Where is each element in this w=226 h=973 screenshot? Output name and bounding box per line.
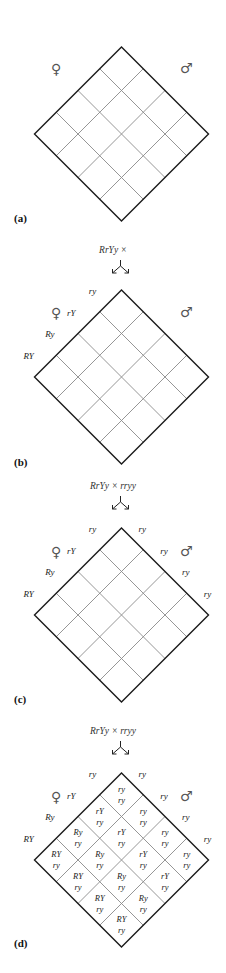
- cell-female-allele: ry: [150, 827, 180, 838]
- cell-female-allele: rY: [150, 871, 180, 882]
- cell-female-allele: RY: [107, 914, 137, 925]
- cell-female-allele: RY: [41, 849, 71, 860]
- cell-male-allele: ry: [150, 882, 180, 893]
- female-gamete-label: ry: [89, 770, 97, 779]
- cell-male-allele: ry: [107, 795, 137, 806]
- cell-male-allele: ry: [107, 925, 137, 936]
- cell-male-allele: ry: [107, 882, 137, 893]
- offspring-cell: Ryry: [107, 871, 137, 893]
- cell-female-allele: RY: [63, 871, 93, 882]
- offspring-cell: ryry: [172, 849, 202, 871]
- cell-female-allele: Ry: [63, 827, 93, 838]
- male-symbol-icon: ♂: [180, 789, 193, 803]
- panel-d: RrYy × rryy♀♂RYRyrYryryryryryRYryRyryrYr…: [0, 0, 226, 973]
- cell-male-allele: ry: [107, 838, 137, 849]
- female-gamete-label: Ry: [45, 813, 54, 822]
- cell-male-allele: ry: [63, 838, 93, 849]
- offspring-cell: ryry: [128, 806, 158, 828]
- offspring-cell: ryry: [150, 827, 180, 849]
- offspring-cell: RYry: [41, 849, 71, 871]
- offspring-cell: Ryry: [128, 893, 158, 915]
- female-gamete-label: RY: [23, 835, 33, 844]
- male-gamete-label: ry: [160, 792, 168, 801]
- cell-male-allele: ry: [172, 860, 202, 871]
- cell-male-allele: ry: [85, 860, 115, 871]
- cell-male-allele: ry: [128, 860, 158, 871]
- cell-female-allele: ry: [107, 784, 137, 795]
- offspring-cell: ryry: [107, 784, 137, 806]
- panel-label: (d): [14, 937, 27, 949]
- offspring-cell: rYry: [128, 849, 158, 871]
- cell-male-allele: ry: [128, 904, 158, 915]
- cell-female-allele: RY: [85, 893, 115, 904]
- offspring-cell: Ryry: [85, 849, 115, 871]
- male-gamete-label: ry: [138, 770, 146, 779]
- cell-male-allele: ry: [63, 882, 93, 893]
- cell-male-allele: ry: [150, 838, 180, 849]
- cell-male-allele: ry: [85, 904, 115, 915]
- cell-female-allele: Ry: [107, 871, 137, 882]
- cell-female-allele: rY: [107, 827, 137, 838]
- offspring-cell: RYry: [107, 914, 137, 936]
- cell-male-allele: ry: [41, 860, 71, 871]
- cell-male-allele: ry: [128, 817, 158, 828]
- female-gamete-label: rY: [67, 792, 76, 801]
- split-arrow-icon: [113, 741, 129, 754]
- offspring-cell: rYry: [107, 827, 137, 849]
- cell-female-allele: ry: [172, 849, 202, 860]
- cross-label: RrYy × rryy: [0, 727, 226, 737]
- offspring-cell: Ryry: [63, 827, 93, 849]
- cell-female-allele: rY: [128, 849, 158, 860]
- male-gamete-label: ry: [182, 813, 190, 822]
- male-gamete-label: ry: [204, 835, 212, 844]
- offspring-cell: RYry: [63, 871, 93, 893]
- offspring-cell: RYry: [85, 893, 115, 915]
- cell-female-allele: Ry: [85, 849, 115, 860]
- offspring-cell: rYry: [150, 871, 180, 893]
- offspring-cell: rYry: [85, 806, 115, 828]
- cell-female-allele: Ry: [128, 893, 158, 904]
- cell-female-allele: rY: [85, 806, 115, 817]
- cell-female-allele: ry: [128, 806, 158, 817]
- female-symbol-icon: ♀: [51, 790, 61, 804]
- cell-male-allele: ry: [85, 817, 115, 828]
